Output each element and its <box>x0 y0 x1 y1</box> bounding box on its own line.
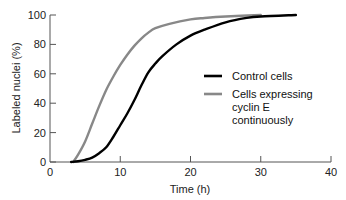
y-tick-label: 60 <box>34 68 46 80</box>
x-tick-label: 0 <box>47 166 53 178</box>
x-tick-label: 30 <box>255 166 267 178</box>
y-axis: 020406080100 <box>28 9 56 168</box>
x-axis-title: Time (h) <box>170 183 211 195</box>
legend: Control cellsCells expressingcyclin Econ… <box>204 70 313 126</box>
y-axis-title: Labeled nuclei (%) <box>10 42 22 133</box>
y-tick-label: 100 <box>28 9 46 21</box>
y-tick-label: 0 <box>40 156 46 168</box>
x-tick-label: 10 <box>114 166 126 178</box>
y-tick-label: 40 <box>34 97 46 109</box>
x-tick-label: 20 <box>184 166 196 178</box>
y-tick-label: 80 <box>34 38 46 50</box>
x-tick-label: 40 <box>325 166 337 178</box>
legend-label-control: Control cells <box>232 70 293 82</box>
legend-label-cyclin-e: Cells expressingcyclin Econtinuously <box>232 88 313 126</box>
chart: 020406080100 010203040 Labeled nuclei (%… <box>0 0 346 200</box>
y-tick-label: 20 <box>34 127 46 139</box>
